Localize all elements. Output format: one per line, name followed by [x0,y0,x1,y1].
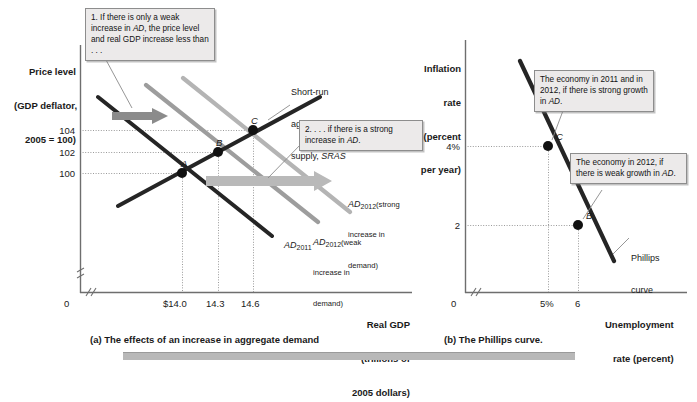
callout-economy-2011-2012-strong: The economy in 2011 and in 2012, if ther… [534,70,654,112]
bottom-divider-bar [123,352,575,360]
panel-b-y-axis-title: Inflation rate (percent per year) [404,41,461,198]
panel-a-ytick-104: 104 [50,125,75,136]
point-c [543,141,553,151]
point-c [248,125,258,135]
panel-a-origin-label: 0 [64,298,69,309]
point-a [177,168,187,178]
panel-b-caption: (b) The Phillips curve. [444,334,543,345]
ad-2011-label: AD2011 [274,229,312,261]
point-b [573,220,583,230]
shift-arrow-weak [112,108,168,124]
panel-a-xtick-146: 14.6 [241,298,260,309]
ad-2012-weak-label: AD2012(weak increase in demand) [313,216,361,330]
panel-a-point-label-b: B [216,137,222,148]
point-b [213,147,223,157]
panel-b-xtick-5: 5% [540,298,554,309]
panel-a-caption: (a) The effects of an increase in aggreg… [90,334,319,345]
phillips-curve-label: Phillips curve [631,232,660,317]
panel-b-origin-label: 0 [451,298,456,309]
panel-b-ytick-2: 2 [436,220,460,231]
panel-b-xtick-6: 6 [575,298,580,309]
panel-b-ytick-4: 4% [436,141,460,152]
callout-economy-2012-weak: The economy in 2012, if there is weak gr… [570,153,687,184]
callout-weak-increase: 1. If there is only a weak increase in A… [85,8,215,61]
panel-a-point-label-a: A [181,158,187,169]
panel-a-point-label-c: C [251,115,258,126]
panel-b-point-label-c: C [556,131,563,142]
panel-b-point-label-b: B [586,210,592,221]
panel-a-xtick-143: 14.3 [206,298,225,309]
panel-a-ytick-100: 100 [50,168,75,179]
panel-a-ytick-102: 102 [50,147,75,158]
panel-a-xtick-140: $14.0 [163,298,187,309]
